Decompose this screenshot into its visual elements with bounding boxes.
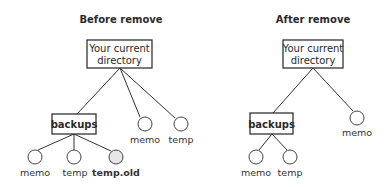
edge (272, 134, 287, 150)
root-label-line2: directory (291, 55, 336, 66)
removed-file-label: temp.old (92, 167, 140, 178)
edge (273, 68, 313, 113)
file-label: temp (63, 167, 88, 178)
directory-tree-diagram: Before remove Your current directory bac… (0, 0, 388, 187)
file-node (249, 150, 263, 164)
edge (313, 68, 353, 111)
root-label-line2: directory (97, 55, 142, 66)
edge (74, 134, 111, 151)
file-label: memo (20, 167, 50, 178)
file-node (138, 117, 152, 131)
before-panel: Before remove Your current directory bac… (20, 14, 194, 178)
after-panel: After remove Your current directory back… (241, 14, 372, 178)
edge (120, 68, 175, 118)
before-title: Before remove (79, 14, 162, 25)
file-node (174, 117, 188, 131)
backups-label: backups (51, 119, 98, 130)
file-label: memo (342, 127, 372, 138)
edge (77, 68, 120, 114)
edge (120, 68, 140, 117)
file-node (350, 111, 364, 125)
edge (259, 134, 272, 150)
file-node (67, 150, 81, 164)
root-label-line1: Your current (88, 43, 150, 54)
file-label: temp (169, 134, 194, 145)
file-node (28, 150, 42, 164)
file-node (283, 150, 297, 164)
file-label: temp (278, 167, 303, 178)
root-label-line1: Your current (282, 43, 344, 54)
removed-file-node (109, 150, 123, 164)
after-title: After remove (276, 14, 351, 25)
file-label: memo (130, 134, 160, 145)
file-label: memo (241, 167, 271, 178)
backups-label: backups (248, 119, 295, 130)
edge (38, 134, 74, 150)
